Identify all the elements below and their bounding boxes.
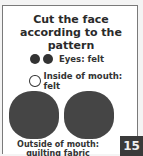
pattern-caption: Outside of mouth: quilting fabric [8, 140, 108, 156]
mouth-shape-left [9, 91, 59, 139]
instruction-card: Cut the face according to the pattern Ey… [2, 5, 138, 154]
page-number-badge: 15 [120, 136, 143, 156]
outline-circle-icon [29, 75, 41, 87]
legend-label-eyes: Eyes: felt [59, 54, 104, 64]
filled-circle-icon [30, 54, 40, 64]
legend-mouth-inside: Inside of mouth: felt [29, 71, 137, 91]
instruction-title: Cut the face according to the pattern [3, 13, 139, 52]
legend-eyes: Eyes: felt [30, 54, 104, 64]
mouth-shape-right [64, 91, 114, 139]
filled-circle-icon [43, 54, 53, 64]
legend-label-mouth: Inside of mouth: felt [44, 71, 137, 91]
